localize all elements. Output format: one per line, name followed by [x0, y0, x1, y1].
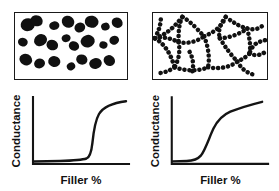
chart-left-curve: [34, 101, 126, 161]
network-particles-svg: [153, 13, 267, 79]
dispersed-particles-svg: [15, 13, 127, 79]
chart-right-curve: [173, 102, 262, 162]
chart-left-ylabel: Conductance: [10, 95, 22, 168]
chart-gradual-percolation: Filler % Conductance: [139, 93, 278, 189]
particle-chain-group: [155, 17, 265, 75]
chart-right-ylabel: Conductance: [149, 95, 161, 167]
chart-left-axes: [33, 97, 129, 164]
chart-right-axes: [172, 97, 268, 164]
panel-dispersed-particles: [14, 12, 128, 80]
percolation-figure: Filler % Conductance Filler % Conductanc…: [0, 0, 279, 191]
chart-sharp-percolation: Filler % Conductance: [0, 93, 139, 189]
chart-left-svg: Filler % Conductance: [0, 93, 139, 189]
chart-right-svg: Filler % Conductance: [139, 93, 278, 189]
particle-group-large: [17, 13, 125, 72]
panel-network-particles: [152, 12, 268, 80]
chart-right-xlabel: Filler %: [200, 174, 241, 186]
chart-left-xlabel: Filler %: [61, 174, 102, 186]
